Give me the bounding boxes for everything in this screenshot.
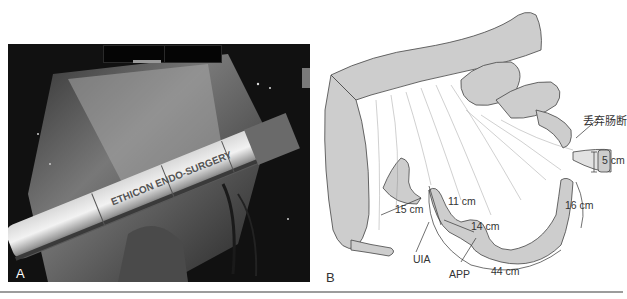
annotation-15cm: 15 cm <box>395 203 424 215</box>
surgical-scene: ETHICON ENDO-SURGERY <box>8 44 310 282</box>
bottom-rule-divider <box>0 291 623 293</box>
panel-a-surgical-photo: ETHICON ENDO-SURGERY <box>8 44 310 282</box>
annotation-discarded-segment: 丢弃肠断 <box>583 112 627 128</box>
annotation-44cm: 44 cm <box>491 265 520 277</box>
annotation-uia: UIA <box>413 253 431 265</box>
hud-side-tab <box>302 68 310 88</box>
annotation-app: APP <box>449 268 470 280</box>
hud-status-bar <box>133 60 161 63</box>
annotation-16cm: 16 cm <box>565 199 594 211</box>
colon-diagram <box>311 0 623 290</box>
panel-label-a: A <box>16 266 25 281</box>
annotation-5cm: 5 cm <box>602 154 625 166</box>
annotation-14cm: 14 cm <box>471 220 500 232</box>
panel-b-illustration: 丢弃肠断 5 cm 16 cm 15 cm 11 cm 14 cm UIA AP… <box>311 0 623 290</box>
hud-instrument-status-right <box>164 45 222 63</box>
annotation-11cm: 11 cm <box>448 195 476 207</box>
panel-label-b: B <box>326 270 335 285</box>
